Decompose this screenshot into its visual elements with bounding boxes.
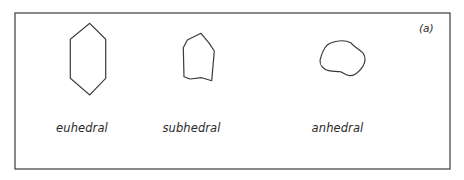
subhedral-crystal-shape xyxy=(183,33,214,80)
figure-frame xyxy=(15,13,450,169)
anhedral-label: anhedral xyxy=(312,121,364,135)
diagram-canvas xyxy=(0,0,464,180)
euhedral-label: euhedral xyxy=(56,121,108,135)
subhedral-label: subhedral xyxy=(162,121,220,135)
anhedral-crystal-shape xyxy=(320,41,365,76)
crystal-shape-diagram: (a) euhedral subhedral anhedral xyxy=(0,0,464,180)
euhedral-crystal-shape xyxy=(70,23,105,95)
panel-tag: (a) xyxy=(419,22,434,34)
